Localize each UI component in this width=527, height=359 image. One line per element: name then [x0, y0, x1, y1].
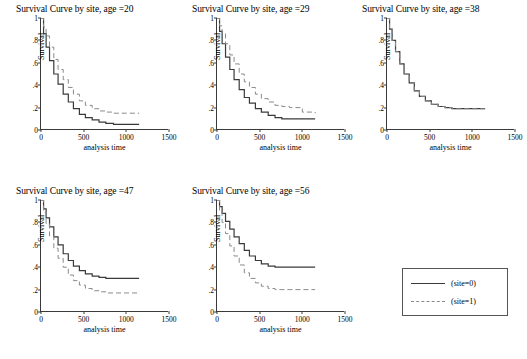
plot-area: Survival 0.2.4.6.81050010001500analysis …: [40, 18, 168, 130]
y-tick-mark: [214, 85, 217, 86]
survival-curve-site1: [41, 200, 139, 293]
x-axis-label: analysis time: [430, 143, 472, 152]
x-tick-mark: [169, 129, 170, 132]
x-tick-mark: [217, 129, 218, 132]
y-tick-mark: [38, 244, 41, 245]
y-tick-mark: [384, 62, 387, 63]
plot-area: Survival 0.2.4.6.81050010001500analysis …: [216, 18, 344, 130]
x-tick-mark: [429, 129, 430, 132]
legend-line-dashed-icon: [411, 298, 445, 305]
panel-age-29: Survival Curve by site, age =29 Survival…: [180, 2, 356, 174]
x-tick-mark: [83, 311, 84, 314]
x-tick-label: 1000: [295, 133, 310, 142]
x-tick-mark: [515, 129, 516, 132]
x-tick-mark: [472, 129, 473, 132]
x-tick-label: 1500: [338, 315, 353, 324]
y-tick-mark: [214, 267, 217, 268]
y-tick-mark: [214, 62, 217, 63]
x-tick-mark: [126, 129, 127, 132]
curve-group: [41, 18, 169, 130]
y-tick-mark: [38, 18, 41, 19]
x-tick-label: 1000: [295, 315, 310, 324]
figure-root: Survival Curve by site, age =20 Survival…: [0, 0, 527, 359]
x-tick-mark: [41, 311, 42, 314]
x-tick-label: 500: [78, 133, 89, 142]
panel-title: Survival Curve by site, age =38: [362, 4, 479, 14]
y-tick-mark: [38, 62, 41, 63]
survival-curve-site0: [41, 18, 139, 124]
x-tick-label: 500: [78, 315, 89, 324]
y-tick-mark: [384, 18, 387, 19]
y-tick-mark: [214, 40, 217, 41]
x-tick-mark: [259, 129, 260, 132]
x-tick-label: 1500: [162, 315, 177, 324]
x-tick-mark: [41, 129, 42, 132]
y-tick-mark: [214, 18, 217, 19]
x-tick-label: 1000: [119, 315, 134, 324]
legend-label: (site=0): [451, 279, 476, 288]
y-tick-mark: [38, 222, 41, 223]
x-tick-label: 500: [254, 133, 265, 142]
y-tick-mark: [214, 244, 217, 245]
y-tick-mark: [384, 40, 387, 41]
y-tick-mark: [38, 289, 41, 290]
survival-curve-site1: [217, 18, 315, 113]
x-tick-mark: [259, 311, 260, 314]
y-tick-mark: [214, 107, 217, 108]
x-tick-mark: [302, 311, 303, 314]
x-tick-mark: [345, 129, 346, 132]
x-tick-mark: [169, 311, 170, 314]
plot-area: Survival 0.2.4.6.81050010001500analysis …: [216, 200, 344, 312]
curve-group: [217, 18, 345, 130]
x-tick-mark: [217, 311, 218, 314]
survival-curve-site1: [41, 18, 139, 113]
x-axis-label: analysis time: [260, 325, 302, 334]
legend-entry-site0: (site=0): [411, 279, 476, 288]
y-tick-mark: [214, 222, 217, 223]
y-tick-mark: [214, 200, 217, 201]
x-tick-label: 1500: [162, 133, 177, 142]
x-tick-label: 0: [215, 315, 219, 324]
legend: (site=0) (site=1): [402, 268, 508, 316]
plot-area: Survival 0.2.4.6.81050010001500analysis …: [386, 18, 514, 130]
x-axis-label: analysis time: [84, 143, 126, 152]
x-tick-label: 0: [39, 133, 43, 142]
panel-title: Survival Curve by site, age =29: [192, 4, 309, 14]
x-tick-label: 1000: [465, 133, 480, 142]
survival-curve-site0: [41, 200, 139, 278]
y-tick-mark: [384, 85, 387, 86]
x-tick-label: 0: [385, 133, 389, 142]
x-axis-label: analysis time: [260, 143, 302, 152]
survival-curve-site1: [217, 200, 315, 290]
panel-title: Survival Curve by site, age =56: [192, 186, 309, 196]
legend-line-solid-icon: [411, 280, 445, 287]
x-tick-label: 1500: [508, 133, 523, 142]
x-tick-mark: [126, 311, 127, 314]
x-tick-label: 1000: [119, 133, 134, 142]
panel-age-56: Survival Curve by site, age =56 Survival…: [180, 184, 356, 356]
curve-group: [41, 200, 169, 312]
curve-group: [217, 200, 345, 312]
panel-age-38: Survival Curve by site, age =38 Survival…: [350, 2, 526, 174]
survival-curve-site0: [387, 18, 485, 109]
y-tick-mark: [384, 107, 387, 108]
curve-group: [387, 18, 515, 130]
panel-age-47: Survival Curve by site, age =47 Survival…: [4, 184, 180, 356]
x-tick-mark: [83, 129, 84, 132]
x-tick-label: 0: [215, 133, 219, 142]
y-tick-mark: [38, 40, 41, 41]
survival-curve-site0: [217, 200, 315, 267]
y-tick-mark: [38, 200, 41, 201]
y-tick-mark: [38, 85, 41, 86]
plot-area: Survival 0.2.4.6.81050010001500analysis …: [40, 200, 168, 312]
x-tick-mark: [302, 129, 303, 132]
x-axis-label: analysis time: [84, 325, 126, 334]
x-tick-mark: [387, 129, 388, 132]
panel-age-20: Survival Curve by site, age =20 Survival…: [4, 2, 180, 174]
y-tick-mark: [38, 267, 41, 268]
legend-label: (site=1): [451, 297, 476, 306]
x-tick-mark: [345, 311, 346, 314]
legend-entry-site1: (site=1): [411, 297, 476, 306]
x-tick-label: 0: [39, 315, 43, 324]
x-tick-label: 500: [424, 133, 435, 142]
